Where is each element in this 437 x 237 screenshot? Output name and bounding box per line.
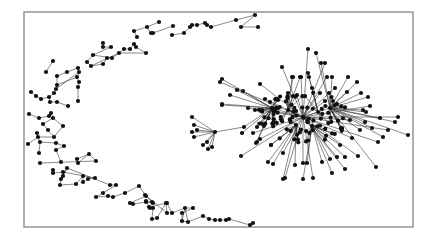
node xyxy=(27,112,31,116)
node xyxy=(190,23,194,27)
node xyxy=(170,33,174,37)
node xyxy=(134,45,138,49)
node xyxy=(270,106,274,110)
node xyxy=(327,91,331,95)
node xyxy=(366,95,370,99)
node xyxy=(343,105,347,109)
node xyxy=(339,104,343,108)
node xyxy=(94,159,98,163)
node xyxy=(38,140,42,144)
node xyxy=(315,124,319,128)
node xyxy=(246,106,250,110)
node xyxy=(55,100,59,104)
node xyxy=(151,206,155,210)
node xyxy=(101,191,105,195)
node xyxy=(318,91,322,95)
node xyxy=(135,35,139,39)
node xyxy=(62,144,66,148)
node xyxy=(301,161,305,165)
node xyxy=(323,127,327,131)
node xyxy=(271,162,275,166)
node xyxy=(128,47,132,51)
node xyxy=(272,117,276,121)
node xyxy=(263,122,267,126)
node xyxy=(343,167,347,171)
node xyxy=(301,177,305,181)
node xyxy=(192,135,196,139)
node xyxy=(364,110,368,114)
node xyxy=(333,132,337,136)
node xyxy=(47,95,51,99)
node xyxy=(191,206,195,210)
node xyxy=(235,88,239,92)
node xyxy=(87,152,91,156)
edge xyxy=(215,127,244,132)
node xyxy=(258,137,262,141)
node xyxy=(328,106,332,110)
node xyxy=(320,107,324,111)
node xyxy=(51,171,55,175)
node xyxy=(195,23,199,27)
node xyxy=(310,86,314,90)
node xyxy=(89,64,93,68)
edge xyxy=(211,20,236,27)
node xyxy=(340,126,344,130)
node xyxy=(374,165,378,169)
node xyxy=(76,66,80,70)
node xyxy=(358,128,362,132)
node xyxy=(267,116,271,120)
node xyxy=(251,221,255,225)
node xyxy=(34,94,38,98)
node xyxy=(356,154,360,158)
node xyxy=(291,75,295,79)
node xyxy=(396,115,400,119)
node xyxy=(288,120,292,124)
node xyxy=(239,154,243,158)
node xyxy=(255,125,259,129)
node xyxy=(280,65,284,69)
node xyxy=(101,62,105,66)
node xyxy=(77,80,81,84)
node xyxy=(393,120,397,124)
node xyxy=(296,140,300,144)
node xyxy=(101,45,105,49)
node xyxy=(324,134,328,138)
node xyxy=(36,135,40,139)
node xyxy=(205,140,209,144)
node xyxy=(205,23,209,27)
node xyxy=(59,177,63,181)
node xyxy=(286,91,290,95)
node xyxy=(91,53,95,57)
node xyxy=(266,160,270,164)
node xyxy=(338,143,342,147)
network-diagram xyxy=(0,0,437,237)
node xyxy=(209,25,213,29)
node xyxy=(333,86,337,90)
node xyxy=(278,136,282,140)
node xyxy=(171,24,175,28)
node xyxy=(93,176,97,180)
node xyxy=(323,61,327,65)
node xyxy=(240,131,244,135)
node xyxy=(123,191,127,195)
node xyxy=(59,160,63,164)
node xyxy=(299,75,303,79)
node xyxy=(183,206,187,210)
node xyxy=(269,143,273,147)
node xyxy=(311,91,315,95)
node xyxy=(37,116,41,120)
node xyxy=(328,116,332,120)
node xyxy=(311,176,315,180)
node xyxy=(150,217,154,221)
node xyxy=(144,199,148,203)
node xyxy=(284,99,288,103)
node xyxy=(304,129,308,133)
node xyxy=(37,151,41,155)
node xyxy=(281,177,285,181)
node xyxy=(75,75,79,79)
node xyxy=(336,119,340,123)
node xyxy=(295,93,299,97)
node xyxy=(301,115,305,119)
node xyxy=(151,201,155,205)
node xyxy=(290,115,294,119)
